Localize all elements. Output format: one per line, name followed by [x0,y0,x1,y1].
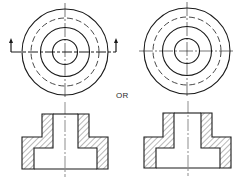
section-left [22,102,108,177]
top-views [9,2,235,98]
drawing-canvas [0,0,243,180]
or-separator-label: OR [116,91,129,100]
hatched-wall-left [22,114,53,169]
top-view-right [139,2,235,97]
section-views [22,101,231,177]
technical-drawing: OR [0,0,243,180]
arrow-up-left-icon [9,38,13,43]
top-view-left [9,3,118,98]
hatched-wall-right [78,114,108,169]
hatched-wall-left [144,113,174,168]
section-right [144,101,231,176]
hatched-wall-right [201,113,231,168]
arrow-up-right-icon [114,38,118,43]
